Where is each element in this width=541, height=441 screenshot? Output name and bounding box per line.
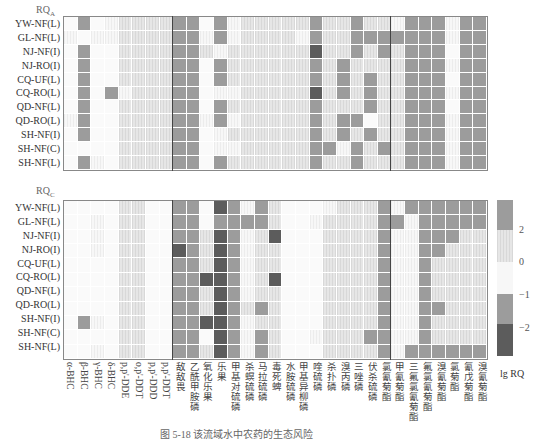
heatmap-cell [460, 87, 474, 101]
heatmap-cell [269, 215, 283, 229]
heatmap-cell [391, 59, 405, 73]
heatmap-rqc [63, 200, 488, 360]
heatmap-cell [419, 273, 433, 287]
heatmap-cell [460, 273, 474, 287]
heatmap-cell [228, 17, 242, 31]
heatmap-cell [473, 100, 487, 114]
heatmap-cell [460, 258, 474, 272]
heatmap-cell [364, 128, 378, 142]
heatmap-cell [146, 17, 160, 31]
heatmap-cell [200, 215, 214, 229]
heatmap-cell [91, 73, 105, 87]
heatmap-cell [173, 114, 187, 128]
heatmap-cell [78, 258, 92, 272]
heatmap-cell [323, 17, 337, 31]
heatmap-cell [91, 230, 105, 244]
heatmap-cell [78, 45, 92, 59]
heatmap-cell [364, 31, 378, 45]
heatmap-cell [323, 244, 337, 258]
column-label: o,p'-DDT [132, 362, 145, 422]
heatmap-cell [214, 128, 228, 142]
row-label: SH-NF(I) [0, 128, 60, 142]
heatmap-cell [419, 17, 433, 31]
heatmap-cell [351, 330, 365, 344]
heatmap-cell [187, 215, 201, 229]
heatmap-cell [432, 215, 446, 229]
heatmap-cell [78, 87, 92, 101]
heatmap-cell [269, 100, 283, 114]
heatmap-cell [282, 100, 296, 114]
heatmap-cell [419, 142, 433, 156]
column-label: δ-BHC [104, 362, 117, 422]
heatmap-cell [296, 114, 310, 128]
heatmap-cell [269, 273, 283, 287]
heatmap-cell [419, 128, 433, 142]
heatmap-cell [132, 142, 146, 156]
heatmap-cell [228, 128, 242, 142]
heatmap-cell [432, 100, 446, 114]
heatmap-cell [200, 100, 214, 114]
heatmap-cell [391, 100, 405, 114]
heatmap-cell [78, 31, 92, 45]
heatmap-cell [473, 287, 487, 301]
heatmap-cell [460, 17, 474, 31]
heatmap-cell [119, 345, 133, 359]
row-label: NJ-NF(I) [0, 45, 60, 59]
column-label: 三唑磷 [351, 362, 364, 422]
heatmap-cell [310, 273, 324, 287]
heatmap-cell [132, 316, 146, 330]
row-label: SH-NF(L) [0, 156, 60, 170]
heatmap-cell [364, 87, 378, 101]
heatmap-cell [473, 258, 487, 272]
heatmap-cell [255, 273, 269, 287]
heatmap-cell [200, 142, 214, 156]
heatmap-cell [405, 73, 419, 87]
heatmap-cell [351, 73, 365, 87]
heatmap-cell [405, 316, 419, 330]
heatmap-cell [391, 142, 405, 156]
heatmap-cell [173, 128, 187, 142]
heatmap-cell [391, 73, 405, 87]
heatmap-cell [228, 230, 242, 244]
heatmap-cell [119, 316, 133, 330]
heatmap-cell [105, 142, 119, 156]
heatmap-cell [187, 100, 201, 114]
heatmap-cell [432, 316, 446, 330]
heatmap-cell [64, 87, 78, 101]
heatmap-cell [296, 100, 310, 114]
heatmap-cell [473, 244, 487, 258]
heatmap-cell [187, 201, 201, 215]
heatmap-cell [255, 128, 269, 142]
heatmap-cell [473, 45, 487, 59]
heatmap-cell [391, 156, 405, 170]
heatmap-cell [187, 316, 201, 330]
heatmap-cell [241, 316, 255, 330]
heatmap-cell [91, 316, 105, 330]
heatmap-cell [105, 215, 119, 229]
heatmap-cell [187, 31, 201, 45]
heatmap-cell [391, 316, 405, 330]
heatmap-cell [241, 330, 255, 344]
heatmap-cell [432, 287, 446, 301]
heatmap-cell [64, 230, 78, 244]
heatmap-cell [78, 156, 92, 170]
heatmap-cell [228, 114, 242, 128]
row-label: NJ-NF(I) [0, 229, 60, 243]
heatmap-cell [460, 201, 474, 215]
heatmap-cell [173, 142, 187, 156]
heatmap-cell [351, 201, 365, 215]
row-label: CQ-RO(L) [0, 270, 60, 284]
heatmap-cell [269, 45, 283, 59]
heatmap-cell [78, 73, 92, 87]
heatmap-cell [200, 128, 214, 142]
heatmap-cell [364, 258, 378, 272]
heatmap-cell [446, 244, 460, 258]
heatmap-cell [78, 316, 92, 330]
heatmap-cell [282, 273, 296, 287]
heatmap-cell [282, 230, 296, 244]
heatmap-cell [146, 230, 160, 244]
heatmap-cell [405, 287, 419, 301]
column-label: 毒死蜱 [269, 362, 282, 422]
column-label: 氯菊酯 [447, 362, 460, 422]
heatmap-cell [187, 156, 201, 170]
